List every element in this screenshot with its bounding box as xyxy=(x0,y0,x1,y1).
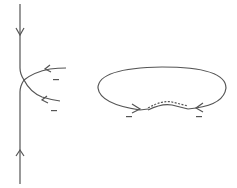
minus-sign xyxy=(196,116,202,117)
right-labels xyxy=(126,116,202,117)
left-figure xyxy=(16,4,66,184)
lower-branch-curve xyxy=(24,80,60,101)
minus-sign xyxy=(51,110,57,111)
oval-loop xyxy=(98,67,226,110)
vertical-line-bottom xyxy=(20,80,24,184)
left-labels xyxy=(51,79,59,111)
diagram-canvas xyxy=(0,0,237,188)
upper-branch-curve xyxy=(24,68,66,80)
vertical-line-top xyxy=(20,4,24,80)
right-figure xyxy=(98,67,226,113)
loop-bottom-left xyxy=(140,109,148,110)
dashed-segment-lower xyxy=(148,105,188,110)
minus-sign xyxy=(53,79,59,80)
loop-bottom-right xyxy=(188,108,196,109)
minus-sign xyxy=(126,116,132,117)
